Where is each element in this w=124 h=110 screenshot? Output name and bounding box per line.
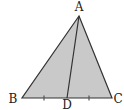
triangle-diagram: A B C D — [0, 0, 124, 110]
label-b: B — [9, 92, 18, 106]
label-d: D — [62, 98, 72, 110]
label-a: A — [74, 0, 84, 14]
label-c: C — [113, 92, 122, 106]
triangle-abc — [22, 16, 112, 98]
